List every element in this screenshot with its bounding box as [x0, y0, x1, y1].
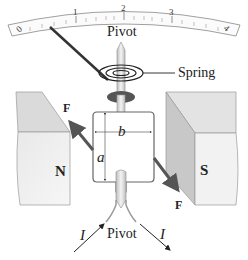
- force-left-label: F⃗: [63, 102, 80, 114]
- current-in-arrow: [74, 224, 104, 252]
- scale-tick-3: 3: [169, 8, 174, 17]
- galvanometer-diagram: 0 1 2 3 4 Pivot Spring N S b a F⃗ F⃗ I P…: [0, 0, 248, 260]
- spring-label: Spring: [178, 66, 215, 80]
- current-in-label: I: [80, 228, 85, 243]
- scale-tick-1: 1: [73, 8, 78, 17]
- current-out-label: I: [160, 227, 165, 242]
- coil-width-label: b: [118, 124, 126, 139]
- scale-tick-2: 2: [121, 4, 126, 13]
- south-pole-label: S: [200, 163, 208, 178]
- bottom-pivot-label: Pivot: [107, 227, 137, 241]
- north-magnet: [16, 92, 70, 205]
- force-arrow-left: [70, 122, 93, 150]
- north-pole-label: N: [55, 164, 66, 179]
- top-pivot-label: Pivot: [107, 25, 137, 39]
- force-right-label: F⃗: [175, 199, 192, 211]
- coil-height-label: a: [97, 150, 105, 165]
- current-out-arrow: [140, 224, 170, 250]
- bottom-pivot-shaft: [116, 170, 126, 208]
